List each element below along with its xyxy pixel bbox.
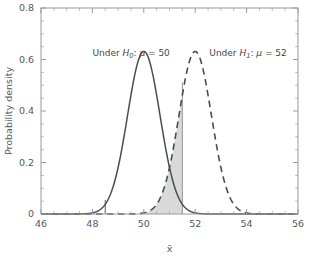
x-tick-label: 46 <box>35 218 47 229</box>
y-tick-label: 0.6 <box>19 54 34 65</box>
x-axis-tick-labels: 464850525456 <box>35 218 304 229</box>
x-tick-label: 54 <box>241 218 253 229</box>
x-tick-label: 48 <box>86 218 98 229</box>
y-tick-label: 0.4 <box>19 105 34 116</box>
x-axis-title: x̄ <box>167 243 173 254</box>
x-tick-label: 52 <box>189 218 201 229</box>
y-tick-label: 0 <box>28 208 34 219</box>
chart-canvas: 464850525456 00.20.40.60.8 x̄ Probabilit… <box>0 0 314 267</box>
y-tick-label: 0.2 <box>19 157 34 168</box>
x-tick-label: 56 <box>292 218 304 229</box>
probability-density-chart: 464850525456 00.20.40.60.8 x̄ Probabilit… <box>0 0 314 267</box>
y-tick-label: 0.8 <box>19 2 34 13</box>
x-tick-label: 50 <box>138 218 150 229</box>
y-axis-title: Probability density <box>3 67 14 155</box>
y-axis-tick-labels: 00.20.40.60.8 <box>19 2 34 219</box>
